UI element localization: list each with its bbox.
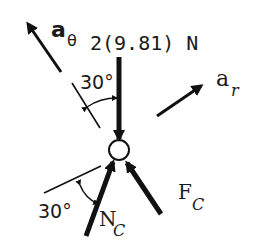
friction-force-label: F [178,180,192,204]
weight-label: 2(9.81) N [90,31,198,55]
free-body-diagram: a θ 2(9.81) N a r 30° 30° N C F C [0,0,267,252]
a-r-arrow [157,86,201,116]
a-r-subscript: r [231,81,240,100]
lower-angle-label: 30° [38,200,72,222]
friction-force-subscript: C [192,195,204,214]
lower-reference-line [44,166,101,193]
a-theta-label: a [51,17,66,42]
particle-circle [109,140,129,160]
a-theta-subscript: θ [67,31,77,50]
normal-force-subscript: C [113,221,125,240]
a-r-label: a [216,66,229,91]
lower-angle-arc [80,185,98,204]
upper-angle-arc [87,98,117,107]
friction-force-arrow [127,163,161,214]
upper-angle-label: 30° [80,71,114,93]
